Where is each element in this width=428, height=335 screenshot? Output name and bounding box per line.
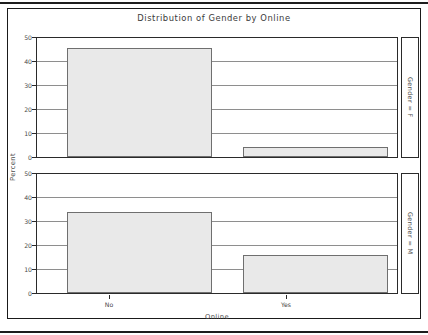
y-tick-label: 40 <box>4 194 32 201</box>
top-divider <box>0 2 428 4</box>
y-tick-label: 0 <box>4 154 32 161</box>
gridline <box>37 157 397 158</box>
y-tick-label: 0 <box>4 290 32 297</box>
panel-label-text: Gender = M <box>406 212 414 254</box>
gridline <box>37 197 397 198</box>
y-tick-label: 10 <box>4 266 32 273</box>
panel-label-gender-m: Gender = M <box>401 173 419 294</box>
x-axis-title: Online <box>36 313 398 321</box>
bar-gender-f-no <box>67 48 212 157</box>
y-tick-label: 20 <box>4 242 32 249</box>
plot-area-gender-f <box>36 37 398 158</box>
bar-gender-f-yes <box>243 147 388 157</box>
y-tick-label: 20 <box>4 106 32 113</box>
panel-label-gender-f: Gender = F <box>401 37 419 158</box>
y-tick-label: 10 <box>4 130 32 137</box>
bar-gender-m-no <box>67 212 212 293</box>
y-tick-label: 40 <box>4 58 32 65</box>
bar-gender-m-yes <box>243 255 388 293</box>
y-tick-label: 30 <box>4 82 32 89</box>
panel-label-text: Gender = F <box>406 77 414 118</box>
bottom-divider <box>0 331 428 333</box>
x-tick-label: Yes <box>256 301 316 308</box>
y-tick-label: 50 <box>4 34 32 41</box>
gridline <box>37 293 397 294</box>
x-tick-label: No <box>79 301 139 308</box>
y-axis-title: Percent <box>9 0 17 335</box>
chart-title: Distribution of Gender by Online <box>7 13 421 23</box>
plot-area-gender-m <box>36 173 398 294</box>
y-tick-label: 50 <box>4 170 32 177</box>
x-tick-mark <box>286 295 287 299</box>
y-tick-label: 30 <box>4 218 32 225</box>
x-tick-mark <box>109 295 110 299</box>
chart-figure: Distribution of Gender by Online Percent… <box>0 0 428 335</box>
